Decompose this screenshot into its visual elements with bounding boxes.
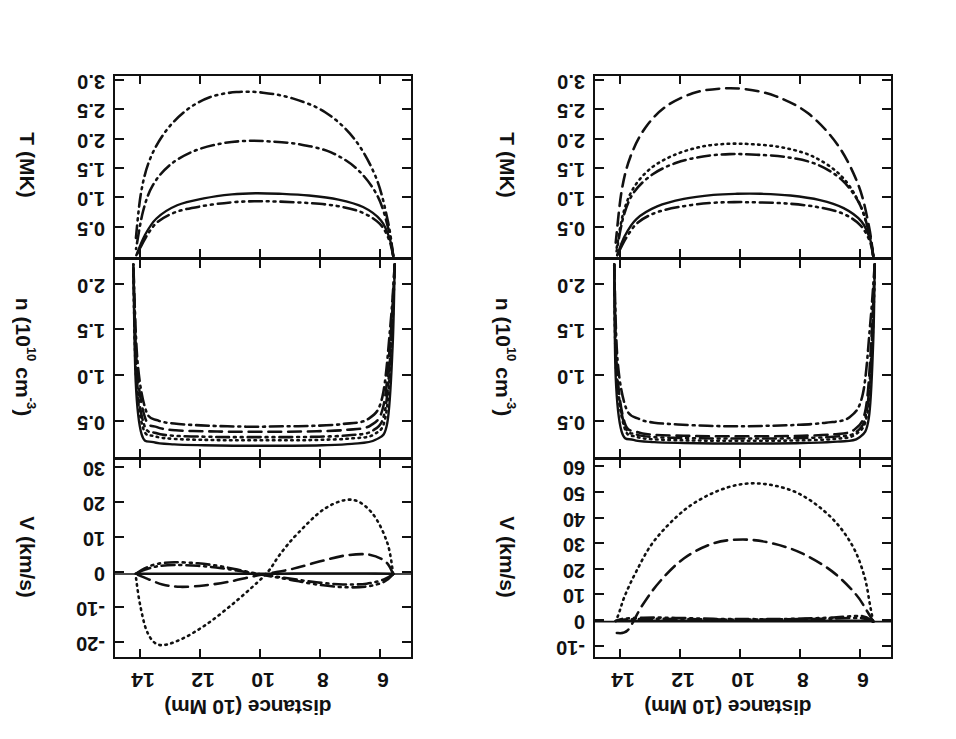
axis-tick <box>799 260 801 268</box>
axis-tick <box>319 449 321 457</box>
y-tick-label: 2.0 <box>557 128 585 151</box>
y-tick-label: 2.0 <box>77 273 105 296</box>
y-tick-label: 1.0 <box>557 365 585 388</box>
y-axis-title-velocity-b: V (km/s) <box>15 516 39 598</box>
axis-tick <box>139 460 141 468</box>
panel-temperature-b: T (MK) 0.51.01.52.02.53.0 <box>113 74 413 259</box>
y-tick-label: 2.5 <box>557 99 585 122</box>
axis-tick <box>595 568 604 570</box>
y-tick-label: 0.5 <box>557 411 585 434</box>
x-tick-label: 8 <box>797 668 809 692</box>
axis-tick <box>882 619 891 621</box>
axis-tick <box>859 260 861 268</box>
panel-velocity-b: V (km/s) -20-100102030 <box>113 459 413 659</box>
axis-tick <box>882 645 891 647</box>
axis-tick <box>402 641 411 643</box>
y-tick-label: 10 <box>563 584 585 607</box>
axis-tick <box>139 649 141 657</box>
panel-density-a: n (1010 cm-3) 0.51.01.52.0 <box>593 259 893 459</box>
x-tick-labels-a: 6 8 10 12 14 <box>563 666 893 692</box>
axis-tick <box>139 249 141 257</box>
axis-tick <box>319 460 321 468</box>
axis-tick <box>859 460 861 468</box>
axis-tick <box>139 260 141 268</box>
axis-tick <box>859 249 861 257</box>
axis-tick <box>739 649 741 657</box>
axis-tick <box>679 449 681 457</box>
x-tick-label: 8 <box>317 668 329 692</box>
axis-tick <box>115 196 124 198</box>
axis-tick <box>115 374 124 376</box>
axis-tick <box>595 167 604 169</box>
data-curve-dashdotdot <box>133 265 394 438</box>
axis-tick <box>882 593 891 595</box>
axis-tick <box>595 593 604 595</box>
plot-area-density-b <box>115 260 411 457</box>
y-tick-label: 2.0 <box>557 273 585 296</box>
data-curve-dotted <box>614 265 874 441</box>
axis-tick <box>679 460 681 468</box>
axis-tick <box>882 491 891 493</box>
y-tick-label: 40 <box>563 507 585 530</box>
axis-tick <box>882 517 891 519</box>
data-curve-dashdot <box>614 265 874 427</box>
axis-tick <box>259 460 261 468</box>
axis-tick <box>115 138 124 140</box>
axis-tick <box>799 460 801 468</box>
plot-area-density-a <box>595 260 891 457</box>
axis-tick <box>402 226 411 228</box>
axis-tick <box>739 249 741 257</box>
x-axis-title-b: distance (10 Mm) <box>83 695 413 719</box>
axis-tick <box>402 606 411 608</box>
y-tick-label: 3.0 <box>557 69 585 92</box>
axis-tick <box>619 76 621 84</box>
axis-tick <box>402 536 411 538</box>
y-tick-label: 1.0 <box>557 187 585 210</box>
y-tick-label: 30 <box>563 533 585 556</box>
data-curve-dashdot <box>136 141 393 256</box>
y-tick-label: -10 <box>76 596 105 619</box>
axis-tick <box>115 328 124 330</box>
y-tick-label: 20 <box>563 558 585 581</box>
axis-tick <box>882 328 891 330</box>
plot-group-b: distance (10 Mm) 6 8 10 12 14 V (km/s) -… <box>83 19 413 719</box>
y-tick-label: 2.0 <box>77 128 105 151</box>
curves-temperature-a <box>595 76 891 257</box>
axis-tick <box>679 649 681 657</box>
data-curve-dotted <box>616 483 874 621</box>
axis-tick <box>319 76 321 84</box>
axis-tick <box>259 449 261 457</box>
axis-tick <box>882 138 891 140</box>
axis-tick <box>402 283 411 285</box>
axis-tick <box>115 79 124 81</box>
y-tick-label: -10 <box>556 635 585 658</box>
axis-tick <box>259 249 261 257</box>
axis-tick <box>402 167 411 169</box>
y-tick-label: 2.5 <box>77 99 105 122</box>
y-tick-label: 50 <box>563 481 585 504</box>
curves-temperature-b <box>115 76 411 257</box>
axis-tick <box>739 449 741 457</box>
y-tick-label: 0 <box>574 610 585 633</box>
plot-group-a: distance (10 Mm) 6 8 10 12 14 V (km/s) -… <box>563 19 893 719</box>
axis-tick <box>882 283 891 285</box>
axis-tick <box>882 196 891 198</box>
axis-tick <box>739 76 741 84</box>
axis-tick <box>115 420 124 422</box>
axis-tick <box>595 542 604 544</box>
data-curve-dashdot <box>133 265 394 427</box>
y-tick-label: 20 <box>83 491 105 514</box>
axis-tick <box>139 449 141 457</box>
axis-tick <box>739 460 741 468</box>
axis-tick <box>595 619 604 621</box>
y-tick-label: 0.5 <box>557 216 585 239</box>
axis-tick <box>882 542 891 544</box>
axis-tick <box>402 79 411 81</box>
axis-tick <box>379 260 381 268</box>
axis-tick <box>319 249 321 257</box>
panel-velocity-a: V (km/s) -100102030405060 <box>593 459 893 659</box>
axis-tick <box>619 260 621 268</box>
axis-tick <box>379 649 381 657</box>
y-axis-title-density-a: n (1010 cm-3) <box>491 298 519 416</box>
axis-tick <box>595 517 604 519</box>
